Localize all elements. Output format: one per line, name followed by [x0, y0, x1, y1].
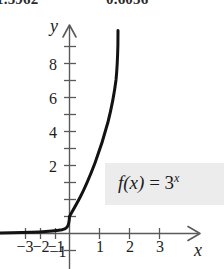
x-tick-label-3: 3	[148, 238, 172, 256]
y-axis	[63, 25, 76, 269]
graph-canvas	[0, 0, 224, 269]
function-label: f(x) = 3x	[118, 171, 179, 194]
y-tick-label--1: −1	[47, 243, 69, 261]
function-label-base: 3	[165, 172, 175, 193]
x-axis-label: x	[194, 240, 202, 261]
y-tick-label-8: 8	[44, 56, 62, 74]
x-tick-label-2: 2	[118, 238, 142, 256]
x-tick-label-1: 1	[88, 238, 112, 256]
y-tick-label-2: 2	[44, 158, 62, 176]
y-tick-label-4: 4	[44, 124, 62, 142]
function-label-var: x	[130, 172, 138, 193]
y-tick-label-6: 6	[44, 90, 62, 108]
exponential-function-figure: 1.5962 0.6056	[0, 0, 224, 269]
function-label-equals: =	[149, 172, 160, 193]
function-label-close: )	[138, 172, 144, 193]
function-label-exponent: x	[174, 171, 179, 185]
y-axis-label: y	[50, 16, 58, 37]
